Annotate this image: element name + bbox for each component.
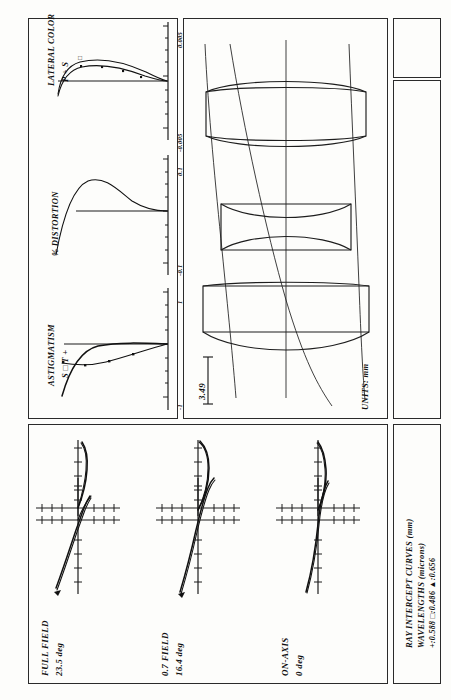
astigmatism-legend: S □ T + (60, 350, 71, 378)
scale-bar-label: 3.49 (197, 383, 208, 400)
ray-intercept-graphics (36, 440, 360, 598)
lateral-color-legend-symbol: □ (76, 56, 84, 60)
lens-layout-drawing (203, 40, 369, 406)
field-angle-full-field: 23.5 deg (54, 643, 65, 676)
distortion-axis-min: -0.1 (176, 265, 184, 277)
field-label-07-field: 0.7 FIELD (160, 632, 171, 676)
astigmatism-axis-min: -1 (176, 404, 184, 410)
units-label: UNITS: mm (360, 364, 371, 410)
astigmatism-title: ASTIGMATISM (46, 324, 57, 386)
caption-wavelengths-values: +:0.588 □:0.486 ▲:0.656 (428, 558, 438, 648)
lateral-color-title: LATERAL COLOR (46, 14, 57, 86)
distortion-axis-max: 0.1 (176, 167, 184, 176)
field-label-on-axis: ON-AXIS (280, 637, 291, 676)
report-page: LATERAL COLOR P + S □ 0.005 -0.005 % DIS… (0, 0, 451, 700)
field-angle-07-field: 16.4 deg (174, 643, 185, 676)
lateral-color-axis-min: -0.005 (176, 133, 184, 152)
field-angle-on-axis: 0 deg (294, 655, 305, 676)
field-label-full-field: FULL FIELD (40, 620, 51, 676)
lateral-color-axis-max: 0.005 (176, 32, 184, 48)
caption-wavelengths-label: WAVELENGTHS (microns) (416, 543, 427, 648)
astigmatism-axis-max: 1 (176, 300, 184, 304)
caption-title: RAY INTERCEPT CURVES (mm) (404, 518, 415, 648)
distortion-title: % DISTORTION (50, 191, 61, 256)
lateral-color-legend: P + S (60, 62, 71, 82)
